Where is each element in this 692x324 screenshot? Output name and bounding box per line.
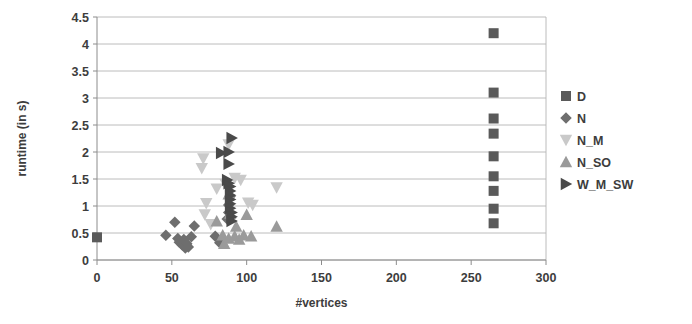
data-point (489, 129, 499, 139)
legend-item-label: N_M (577, 134, 603, 148)
x-tick-label: 200 (386, 271, 407, 285)
y-tick-label: 3 (82, 92, 89, 106)
legend-item-d[interactable]: D (561, 90, 586, 104)
data-point (489, 171, 499, 181)
x-tick-label: 0 (94, 271, 101, 285)
data-point (92, 232, 102, 242)
data-point (489, 88, 499, 98)
legend-marker-icon (561, 91, 571, 101)
data-point (489, 204, 499, 214)
y-tick-label: 4.5 (72, 11, 89, 25)
y-tick-label: 2 (82, 146, 89, 160)
legend-item-n-so[interactable]: N_SO (560, 156, 612, 170)
y-tick-label: 0 (82, 254, 89, 268)
legend-item-label: D (577, 90, 586, 104)
x-axis-title: #vertices (295, 296, 347, 310)
data-point (489, 218, 499, 228)
x-tick-label: 100 (236, 271, 257, 285)
legend-marker-icon (561, 178, 572, 190)
legend-marker-icon (560, 135, 572, 146)
plot-background (97, 17, 546, 260)
y-axis-title: runtime (in s) (15, 100, 29, 176)
x-tick-label: 50 (165, 271, 179, 285)
legend-item-label: N (577, 112, 586, 126)
y-tick-label: 1 (82, 200, 89, 214)
y-tick-label: 0.5 (72, 227, 89, 241)
x-tick-label: 150 (311, 271, 332, 285)
y-tick-label: 3.5 (72, 65, 89, 79)
y-axis: 00.511.522.533.544.5 (72, 11, 97, 268)
legend-marker-icon (560, 156, 572, 167)
y-tick-label: 4 (82, 38, 89, 52)
y-tick-label: 1.5 (72, 173, 89, 187)
legend: DNN_MN_SOW_M_SW (560, 90, 634, 192)
y-tick-label: 2.5 (72, 119, 89, 133)
legend-item-label: W_M_SW (577, 178, 633, 192)
chart-canvas: 00.511.522.533.544.5050100150200250300#v… (0, 0, 692, 324)
data-point (489, 28, 499, 38)
legend-item-n[interactable]: N (560, 112, 586, 126)
legend-item-label: N_SO (577, 156, 611, 170)
data-point (489, 114, 499, 124)
scatter-chart: 00.511.522.533.544.5050100150200250300#v… (0, 0, 692, 324)
x-axis: 050100150200250300 (94, 260, 557, 285)
legend-item-n-m[interactable]: N_M (560, 134, 604, 148)
x-tick-label: 250 (461, 271, 482, 285)
data-point (489, 151, 499, 161)
legend-item-w-m-sw[interactable]: W_M_SW (561, 178, 634, 192)
data-point (489, 186, 499, 196)
legend-marker-icon (560, 112, 572, 124)
x-tick-label: 300 (536, 271, 557, 285)
